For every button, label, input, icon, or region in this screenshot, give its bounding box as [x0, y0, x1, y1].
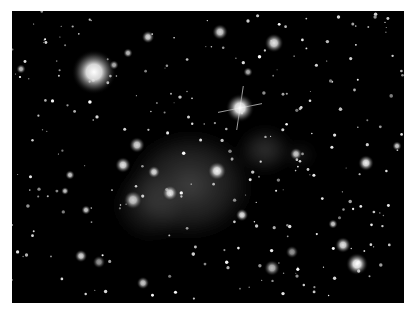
faint-source — [135, 185, 138, 188]
faint-source — [295, 273, 296, 274]
faint-source — [367, 26, 369, 28]
faint-source — [261, 280, 262, 281]
bright-source — [137, 277, 150, 290]
faint-source — [387, 204, 390, 207]
bright-source — [346, 253, 368, 275]
faint-source — [180, 191, 183, 194]
faint-source — [358, 173, 359, 174]
faint-source — [295, 170, 297, 172]
faint-source — [286, 93, 288, 95]
faint-source — [72, 25, 74, 27]
faint-source — [88, 100, 92, 104]
faint-source — [66, 104, 68, 106]
bright-source — [75, 250, 88, 263]
faint-source — [287, 235, 289, 237]
faint-source — [84, 165, 85, 166]
faint-source — [207, 20, 208, 21]
faint-source — [316, 233, 318, 235]
faint-source — [386, 17, 389, 20]
faint-source — [95, 115, 98, 118]
faint-source — [24, 60, 27, 63]
faint-source — [271, 280, 273, 282]
faint-source — [120, 204, 121, 205]
faint-source — [94, 290, 95, 291]
faint-source — [379, 125, 382, 128]
faint-source — [222, 47, 225, 50]
bright-source — [142, 31, 155, 44]
faint-source — [321, 197, 324, 200]
faint-source — [357, 79, 359, 81]
faint-source — [191, 123, 193, 125]
faint-source — [228, 150, 232, 154]
faint-source — [204, 263, 207, 266]
faint-source — [401, 74, 404, 77]
faint-source — [42, 129, 43, 130]
faint-source — [391, 55, 393, 57]
faint-source — [25, 253, 28, 256]
faint-source — [192, 252, 196, 256]
faint-source — [258, 55, 261, 58]
faint-source — [59, 36, 60, 37]
faint-source — [166, 131, 169, 134]
faint-source — [61, 278, 64, 281]
faint-source — [33, 230, 35, 232]
faint-source — [297, 166, 299, 168]
faint-source — [33, 23, 34, 24]
sky-field — [12, 11, 404, 303]
faint-source — [363, 250, 365, 252]
bright-source — [109, 60, 119, 70]
faint-source — [251, 170, 254, 173]
faint-source — [173, 37, 175, 39]
faint-source — [214, 122, 216, 124]
faint-source — [242, 61, 245, 64]
galaxy-cluster-image — [12, 11, 404, 303]
faint-source — [295, 274, 298, 277]
faint-source — [305, 47, 307, 49]
faint-source — [186, 227, 189, 230]
faint-source — [193, 298, 195, 300]
faint-source — [12, 48, 14, 50]
faint-source — [313, 286, 315, 288]
faint-source — [119, 207, 121, 209]
faint-source — [235, 57, 237, 59]
faint-source — [47, 195, 49, 197]
faint-source — [330, 146, 333, 149]
faint-source — [41, 11, 44, 13]
faint-source — [379, 263, 382, 266]
faint-source — [37, 188, 40, 191]
diffuse-glow — [237, 126, 293, 174]
faint-source — [186, 91, 187, 92]
faint-source — [281, 292, 284, 295]
faint-source — [104, 290, 107, 293]
faint-source — [199, 139, 202, 142]
faint-source — [28, 78, 30, 80]
faint-source — [225, 128, 228, 131]
faint-source — [278, 23, 281, 26]
faint-source — [220, 139, 223, 142]
faint-source — [56, 60, 58, 62]
faint-source — [312, 174, 315, 177]
faint-source — [383, 215, 384, 216]
faint-source — [182, 151, 185, 154]
faint-source — [111, 189, 113, 191]
faint-source — [50, 256, 52, 258]
bright-source — [207, 161, 226, 180]
faint-source — [258, 176, 260, 178]
faint-source — [144, 70, 147, 73]
faint-source — [58, 75, 60, 77]
faint-source — [212, 183, 215, 186]
bright-source — [123, 190, 142, 209]
faint-source — [285, 123, 288, 126]
bright-source — [148, 166, 161, 179]
faint-source — [191, 97, 193, 99]
faint-source — [309, 174, 310, 175]
faint-source — [84, 293, 86, 295]
faint-source — [108, 260, 111, 263]
faint-source — [326, 40, 329, 43]
faint-source — [186, 58, 189, 61]
faint-source — [351, 23, 354, 26]
faint-source — [284, 25, 287, 28]
faint-source — [254, 221, 255, 222]
faint-source — [355, 25, 357, 27]
faint-source — [78, 33, 80, 35]
